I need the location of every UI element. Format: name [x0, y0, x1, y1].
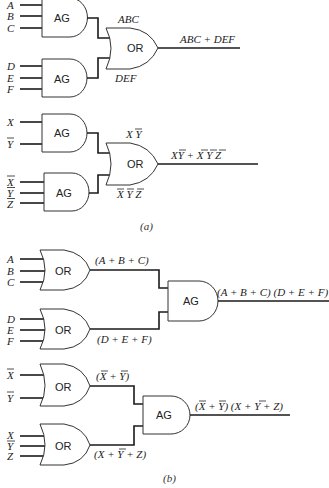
input-f: F — [6, 83, 14, 95]
input-z: Z — [7, 450, 14, 462]
part-b-circuit-1: OR A B C OR D E F (A + B + C) (D + E + F… — [6, 250, 329, 349]
gate-type-label: OR — [55, 440, 72, 452]
or-gate-4: OR X Y Z — [6, 424, 90, 465]
intermediate-label-x-plus-ybar-plus-z: (X + Y + Z) — [94, 448, 146, 461]
or-gate-3: OR X Y — [6, 364, 90, 406]
part-a-circuit-2: AG X Y AG X Y Z OR X Y X Y Z — [6, 114, 258, 211]
output-expression: ABC + DEF — [179, 33, 235, 45]
gate-type-label: AG — [156, 409, 172, 421]
intermediate-label-abc: ABC — [117, 13, 139, 25]
output-expression: (X + Y) (X + Y + Z) — [195, 400, 283, 413]
input-f: F — [6, 335, 14, 347]
input-b: B — [7, 10, 14, 22]
gate-type-label: AG — [54, 127, 70, 139]
or-gate-combiner: OR — [106, 28, 158, 69]
and-gate-2: AG D E F — [6, 59, 87, 97]
gate-type-label: AG — [183, 295, 199, 307]
input-y-bar: Y — [7, 392, 15, 404]
gate-type-label: AG — [56, 187, 72, 199]
input-d: D — [6, 60, 15, 72]
and-gate-4: AG X Y Z — [6, 173, 89, 211]
output-expression: XY + X Y Z — [170, 149, 222, 161]
caption-b: (b) — [163, 472, 176, 485]
intermediate-label-xbar-ybar-zbar: X Y Z — [116, 188, 142, 200]
gate-type-label: OR — [55, 381, 72, 393]
input-c: C — [7, 276, 15, 288]
caption-a: (a) — [140, 220, 153, 233]
and-gate-combiner: AG — [168, 281, 218, 321]
input-y-bar: Y — [7, 138, 15, 150]
part-a-circuit-1: AG A B C AG D E F OR ABC DEF ABC + DEF — [6, 0, 240, 97]
and-gate-3: AG X Y — [6, 114, 87, 152]
or-gate-1: OR A B C — [6, 250, 90, 290]
intermediate-label-def: DEF — [114, 72, 137, 84]
output-expression: (A + B + C) (D + E + F) — [217, 286, 328, 299]
input-x: X — [6, 116, 15, 128]
input-a: A — [6, 253, 14, 265]
gate-type-label: OR — [127, 42, 144, 54]
input-x-bar: X — [6, 369, 15, 381]
gate-type-label: OR — [127, 158, 144, 170]
intermediate-label-a-b-c: (A + B + C) — [95, 254, 149, 267]
gate-type-label: AG — [54, 12, 70, 24]
gate-type-label: OR — [55, 324, 72, 336]
and-gate-combiner: AG — [143, 396, 190, 434]
part-b-circuit-2: OR X Y OR X Y Z (X + Y) (X + Y + Z) AG — [6, 364, 290, 465]
intermediate-label-xbar-plus-ybar: (X + Y) — [96, 370, 129, 383]
gate-type-label: AG — [54, 73, 70, 85]
or-gate-2: OR D E F — [6, 309, 90, 349]
logic-gate-diagram: AG A B C AG D E F OR ABC DEF ABC + DEF — [0, 0, 329, 488]
and-gate-1: AG A B C — [6, 0, 87, 37]
intermediate-label-x-ybar: X Y — [125, 128, 143, 140]
or-gate-combiner: OR — [106, 143, 158, 185]
intermediate-label-d-e-f: (D + E + F) — [97, 333, 152, 346]
input-c: C — [7, 22, 15, 34]
input-z-bar: Z — [7, 198, 14, 210]
gate-type-label: OR — [55, 265, 72, 277]
